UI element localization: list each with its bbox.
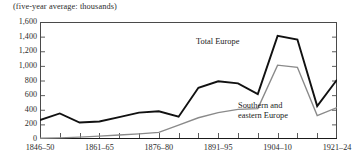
line-chart-figure: (five-year average: thousands) 020040060… [0,0,353,164]
y-axis-tick-label: 400 [3,106,37,114]
x-axis-tick-label: 1846–50 [26,143,55,152]
y-axis-tick-label: 600 [3,91,37,99]
y-axis-tick-label: 800 [3,77,37,85]
series-line [40,36,337,123]
x-axis-tick-label: 1921–24 [323,143,352,152]
x-axis-tick-labels: 1846–501861–651876–801891–951904–101921–… [0,143,353,163]
series-label-southern-line1: Southern and [238,101,288,111]
x-axis-tick-label: 1904–10 [263,143,292,152]
x-axis-tick-label: 1876–80 [144,143,173,152]
series-label-southern-line2: eastern Europe [238,111,288,121]
y-axis-tick-label: 1,200 [3,47,37,55]
plot-area [40,22,337,139]
y-axis-tick-label: 200 [3,120,37,128]
y-axis-tick-label: 1,400 [3,33,37,41]
x-axis-tick-label: 1891–95 [204,143,233,152]
y-axis-tick-label: 1,600 [3,18,37,26]
x-axis-tick-label: 1861–65 [85,143,114,152]
series-label-southern-eastern-europe: Southern and eastern Europe [238,101,288,120]
series-label-total-europe: Total Europe [196,37,239,47]
series-lines [40,36,337,138]
y-axis-tick-labels: 02004006008001,0001,2001,4001,600 [0,0,37,164]
plot-svg [40,22,337,139]
y-axis-tick-label: 0 [3,135,37,143]
y-axis-tick-label: 1,000 [3,62,37,70]
